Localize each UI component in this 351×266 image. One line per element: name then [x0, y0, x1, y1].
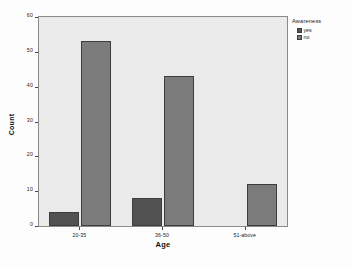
- x-axis-tick-label: 36-50: [155, 232, 169, 238]
- legend-entries: yesno: [292, 27, 350, 40]
- legend-label-yes: yes: [304, 27, 312, 33]
- y-axis: Count 0102030405060: [0, 16, 38, 228]
- bar-no-51-above: [247, 184, 277, 226]
- y-axis-tick-label: 60: [9, 12, 33, 18]
- y-axis-tick-label: 50: [9, 47, 33, 53]
- y-axis-tick-label: 40: [9, 82, 33, 88]
- x-axis-tick-label: 51-above: [233, 232, 255, 238]
- bar-yes-20-35: [49, 212, 79, 226]
- figure-container: Count 0102030405060 20-3536-5051-above A…: [0, 0, 351, 266]
- y-axis-tick-label: 0: [9, 221, 33, 227]
- y-axis-title: Count: [8, 95, 15, 155]
- y-axis-tick-label: 20: [9, 151, 33, 157]
- bar-no-36-50: [164, 76, 194, 226]
- x-axis-tick-label: 20-35: [72, 232, 86, 238]
- bar-yes-36-50: [132, 198, 162, 226]
- plot-area: [39, 17, 287, 226]
- legend-title: Awareness: [292, 18, 350, 24]
- y-axis-tick-label: 30: [9, 117, 33, 123]
- legend-entry-yes[interactable]: yes: [297, 27, 350, 33]
- x-axis-tick-mark: [245, 227, 246, 230]
- y-axis-tick-label: 10: [9, 186, 33, 192]
- bar-no-20-35: [81, 41, 111, 226]
- legend-swatch-no: [297, 35, 302, 40]
- plot-frame: [38, 16, 288, 227]
- x-axis-tick-mark: [79, 227, 80, 230]
- legend-swatch-yes: [297, 28, 302, 33]
- legend-entry-no[interactable]: no: [297, 34, 350, 40]
- x-axis-title: Age: [38, 240, 288, 249]
- legend: Awareness yesno: [292, 18, 350, 41]
- legend-label-no: no: [304, 34, 310, 40]
- x-axis-tick-mark: [162, 227, 163, 230]
